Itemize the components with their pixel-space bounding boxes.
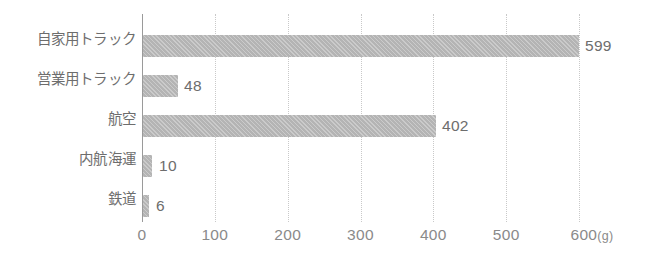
bar-4 [143, 195, 149, 217]
xtick-text-0: 0 [138, 226, 147, 243]
bar-chart: 自家用トラック 599 営業用トラック 48 航空 402 内航海運 10 鉄道… [0, 0, 659, 266]
xtick-text-6: 600 [571, 226, 598, 243]
xtick-text-5: 500 [493, 226, 520, 243]
bar-row: 鉄道 6 [0, 176, 659, 216]
axis-unit-label: (g) [597, 229, 613, 243]
bar-row: 自家用トラック 599 [0, 16, 659, 56]
bar-0 [143, 35, 579, 57]
category-label-0: 自家用トラック [0, 27, 136, 48]
xtick-label-600: 600(g) [571, 226, 614, 244]
bar-row: 内航海運 10 [0, 136, 659, 176]
xtick-label-400: 400 [420, 226, 447, 244]
bar-3 [143, 155, 152, 177]
xtick-label-100: 100 [201, 226, 228, 244]
category-label-1: 営業用トラック [0, 67, 136, 88]
xtick-label-0: 0 [138, 226, 147, 244]
bar-value-1: 48 [184, 77, 202, 95]
bar-value-3: 10 [159, 157, 177, 175]
bar-row: 航空 402 [0, 96, 659, 136]
xtick-label-500: 500 [493, 226, 520, 244]
bar-row: 営業用トラック 48 [0, 56, 659, 96]
bar-1 [143, 75, 178, 97]
xtick-label-300: 300 [347, 226, 374, 244]
xtick-text-3: 300 [347, 226, 374, 243]
category-label-4: 鉄道 [0, 187, 136, 208]
category-label-2: 航空 [0, 107, 136, 128]
xtick-text-4: 400 [420, 226, 447, 243]
bar-value-0: 599 [585, 37, 612, 55]
xtick-label-200: 200 [274, 226, 301, 244]
bar-value-4: 6 [156, 197, 165, 215]
bar-value-2: 402 [442, 117, 469, 135]
category-label-3: 内航海運 [0, 147, 136, 168]
bar-2 [143, 115, 436, 137]
xtick-text-1: 100 [201, 226, 228, 243]
xtick-text-2: 200 [274, 226, 301, 243]
